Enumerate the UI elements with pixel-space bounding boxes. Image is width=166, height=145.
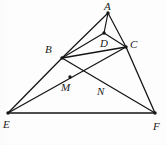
geometry-canvas bbox=[0, 0, 166, 145]
vertices-group bbox=[6, 11, 156, 114]
segment-B-F bbox=[62, 58, 155, 113]
vertex-label-E: E bbox=[3, 119, 10, 130]
vertex-point-D bbox=[102, 31, 105, 34]
vertex-label-C: C bbox=[130, 39, 137, 50]
vertex-label-F: F bbox=[153, 121, 160, 132]
geometry-figure: ABCDEFMN bbox=[0, 0, 166, 145]
vertex-label-M: M bbox=[61, 82, 70, 93]
vertex-point-B bbox=[60, 56, 63, 59]
vertex-point-F bbox=[153, 111, 156, 114]
segment-C-F bbox=[126, 47, 155, 113]
vertex-label-B: B bbox=[45, 44, 52, 55]
vertex-label-N: N bbox=[97, 86, 104, 97]
vertex-label-D: D bbox=[100, 38, 108, 49]
vertex-point-E bbox=[6, 111, 9, 114]
segment-B-E bbox=[8, 58, 62, 113]
vertex-point-C bbox=[124, 45, 127, 48]
vertex-point-M bbox=[68, 75, 71, 78]
vertex-label-A: A bbox=[104, 1, 111, 12]
segments-group bbox=[8, 13, 155, 113]
